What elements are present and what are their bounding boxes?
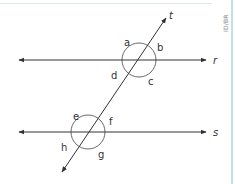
label-angle-a: a xyxy=(124,37,130,48)
label-line-t: t xyxy=(169,10,174,21)
image-credit: ID/BR xyxy=(222,12,232,32)
angle-diagram: ID/BR t r s a b d c e f h g xyxy=(0,0,235,184)
label-line-r: r xyxy=(213,55,218,66)
diagram-canvas: t r s a b d c e f h g xyxy=(0,0,235,184)
label-angle-f: f xyxy=(109,116,113,127)
label-angle-h: h xyxy=(61,142,67,153)
label-angle-c: c xyxy=(148,76,154,87)
label-angle-b: b xyxy=(157,42,163,53)
top-divider xyxy=(0,3,212,4)
label-line-s: s xyxy=(213,127,218,138)
label-angle-e: e xyxy=(73,111,79,122)
label-angle-d: d xyxy=(111,70,117,81)
line-t xyxy=(62,18,166,172)
label-angle-g: g xyxy=(98,149,104,160)
